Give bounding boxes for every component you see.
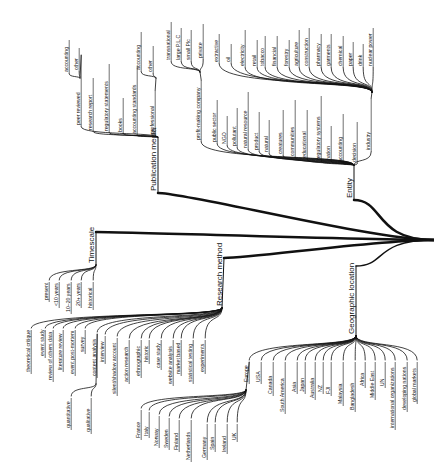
leaf-label: tobacco bbox=[259, 48, 265, 66]
leaf-label: <10 years bbox=[53, 283, 59, 306]
trunk-research-method bbox=[224, 240, 434, 258]
leaf-label: historical bbox=[87, 288, 93, 308]
leaf-label: large P.L.C bbox=[175, 34, 181, 60]
leaf-label: experiments bbox=[199, 343, 205, 372]
leaf-label: NGO bbox=[221, 132, 227, 144]
leaf-label: agriculture bbox=[293, 42, 299, 66]
leaf-label: UN bbox=[379, 378, 385, 386]
leaf-label: retail bbox=[251, 55, 257, 66]
branch-label-research-method: Research method bbox=[215, 243, 224, 306]
leaf-label: Japan bbox=[299, 378, 305, 392]
branch-label-geographic-location: Geographic location bbox=[347, 263, 356, 334]
branch-edge bbox=[153, 74, 156, 78]
leaf-label: industry bbox=[365, 131, 371, 150]
leaf-label: other bbox=[147, 60, 153, 72]
leaf-label: theoretical critique bbox=[25, 330, 31, 372]
leaf-label: Australia bbox=[309, 378, 315, 398]
leaf-label: construction bbox=[303, 38, 309, 66]
leaf-label: transnational bbox=[165, 30, 171, 60]
branch-edge bbox=[200, 60, 203, 72]
leaf-label: NZ bbox=[317, 385, 323, 392]
leaf-label: action research bbox=[123, 346, 129, 382]
leaf-label: Sweden bbox=[163, 429, 169, 448]
leaf-label: interview bbox=[99, 341, 105, 362]
branch-label-timescale: Timescale bbox=[87, 226, 96, 263]
leaf-label: Finland bbox=[173, 433, 179, 450]
leaf-label: small Plc bbox=[185, 39, 191, 60]
leaf-label: Middle East bbox=[369, 370, 375, 398]
leaf-label: financial bbox=[271, 47, 277, 66]
sub-stem bbox=[155, 78, 156, 90]
leaf-label: paper bbox=[347, 52, 353, 66]
leaf-label: global markets bbox=[411, 368, 417, 402]
leaf-label: Ireland bbox=[221, 436, 227, 452]
leaf-label: other bbox=[73, 58, 79, 70]
leaf-label: qualitative bbox=[85, 409, 91, 432]
branch-label-publication-media: Publication media bbox=[149, 127, 158, 191]
leaf-label: drink bbox=[357, 54, 363, 66]
leaf-label: electricity bbox=[239, 44, 245, 66]
branch-edge bbox=[356, 336, 407, 360]
branch-edge bbox=[289, 68, 372, 92]
leaf-label: Norway bbox=[153, 428, 159, 446]
leaf-label: USA bbox=[255, 371, 261, 382]
leaf-label: research report bbox=[87, 94, 93, 130]
leaf-label: developing nations bbox=[401, 366, 407, 410]
leaf-label: profit-making company bbox=[195, 87, 201, 140]
leaf-label: FJI bbox=[325, 387, 331, 394]
leaf-label: silent/shadow account bbox=[111, 342, 117, 394]
sub-stem bbox=[200, 72, 201, 80]
branch-edge bbox=[97, 308, 222, 332]
leaf-label: chemical bbox=[337, 46, 343, 66]
branch-edge bbox=[71, 265, 96, 280]
leaf-label: Spain bbox=[209, 437, 215, 450]
leaf-label: forestry bbox=[283, 48, 289, 66]
leaf-label: extractive bbox=[213, 40, 219, 62]
leaf-label: natural bbox=[263, 136, 269, 152]
leaf-label: content analysis bbox=[91, 338, 97, 376]
leaf-label: natural resource bbox=[242, 110, 248, 148]
leaf-label: statistical testing bbox=[187, 344, 193, 382]
mind-map-diagram: Publication mediapeer reviewedaccounting… bbox=[0, 0, 434, 474]
branch-edge bbox=[69, 74, 80, 78]
leaf-label: decision bbox=[351, 143, 357, 162]
sub-stem bbox=[371, 92, 372, 98]
leaf-label: product bbox=[253, 132, 259, 150]
leaf-label: accounting standards bbox=[131, 84, 137, 134]
leaf-label: event study bbox=[39, 329, 45, 356]
leaf-label: communities bbox=[289, 126, 295, 156]
leaf-label: regulatory systems bbox=[315, 116, 321, 160]
leaf-label: website analysis bbox=[167, 346, 173, 384]
leaf-label: Europe bbox=[243, 365, 249, 382]
branch-edge bbox=[315, 336, 356, 360]
leaf-label: educational bbox=[301, 131, 307, 158]
leaf-label: survey bbox=[79, 336, 85, 352]
branch-edge bbox=[285, 336, 356, 360]
leaf-label: private bbox=[197, 42, 203, 58]
leaf-label: nation bbox=[325, 146, 331, 160]
leaf-label: public sector bbox=[211, 113, 217, 142]
leaf-label: case study bbox=[155, 343, 161, 368]
leaf-label: literature review bbox=[57, 333, 63, 370]
leaf-label: market based bbox=[175, 342, 181, 374]
leaf-label: regulatory statements bbox=[103, 81, 109, 131]
leaf-label: ethnographic bbox=[135, 346, 141, 376]
trunk-publication-media bbox=[158, 193, 434, 240]
leaf-label: international organizations bbox=[389, 367, 395, 428]
branch-edge bbox=[141, 390, 246, 408]
leaf-label: Africa bbox=[359, 373, 365, 386]
leaf-label: South America bbox=[279, 378, 285, 412]
leaf-label: Netherlands bbox=[185, 432, 191, 460]
branch-edge bbox=[219, 64, 372, 92]
trunk-entity bbox=[354, 200, 434, 240]
leaf-label: peer reviewed bbox=[75, 92, 81, 125]
leaf-label: books bbox=[117, 118, 123, 132]
leaf-label: creatures bbox=[277, 132, 283, 154]
leaf-label: nuclear power bbox=[367, 33, 373, 66]
leaf-label: 10–20 years bbox=[65, 283, 71, 312]
leaf-label: oil bbox=[225, 57, 231, 62]
leaf-label: garments bbox=[325, 44, 331, 66]
leaf-label: Asia bbox=[291, 382, 297, 392]
branch-edge bbox=[321, 68, 372, 92]
leaf-label: France bbox=[135, 422, 141, 438]
